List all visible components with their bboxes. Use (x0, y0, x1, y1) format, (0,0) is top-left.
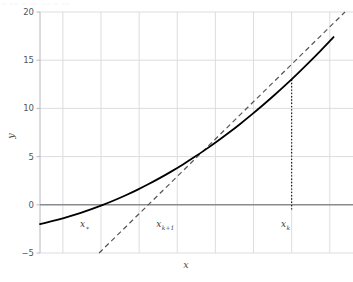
y-axis-ticks (37, 12, 41, 253)
annotation-x-kplus1-subscript: k+1 (162, 224, 174, 231)
plot-background (40, 12, 345, 253)
y-tick-label-2: 5 (29, 152, 34, 162)
y-tick-label-3: 10 (23, 103, 34, 113)
annotation-x-star-subscript: ∗ (86, 224, 90, 231)
annotation-x-k-subscript: k (286, 224, 290, 231)
y-tick-label-1: 0 (29, 200, 34, 210)
annotation-x-kplus1-base: x (156, 219, 161, 229)
annotation-x-star-base: x (80, 219, 85, 229)
annotation-x-k-base: x (281, 219, 286, 229)
x-axis-title: x (183, 259, 189, 270)
y-axis-tick-labels: −505101520 (21, 7, 34, 258)
newton-method-chart: −505101520 x∗xk+1xk x y (0, 0, 353, 282)
y-axis-title: y (5, 133, 16, 140)
figure-canvas: – –– – –– –– – –– −505101520 x∗xk+1xk x … (0, 0, 353, 282)
y-tick-label-4: 15 (23, 55, 34, 65)
y-tick-label-5: 20 (23, 7, 34, 17)
y-tick-label-0: −5 (21, 248, 34, 258)
